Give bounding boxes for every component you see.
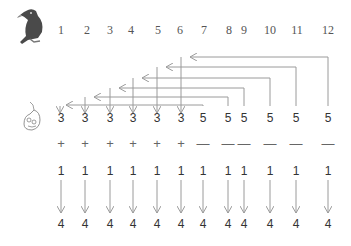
sign-cell: +: [57, 138, 65, 150]
one-cell: 1: [178, 165, 185, 177]
one-cell: 1: [130, 165, 137, 177]
result-cell: 4: [154, 218, 161, 230]
connector-12-6: [190, 57, 328, 106]
value-cell: 3: [107, 112, 114, 124]
value-cell: 3: [82, 112, 89, 124]
sign-cell: —: [290, 138, 303, 150]
top-label: 6: [177, 24, 183, 36]
one-cell: 1: [267, 165, 274, 177]
top-label: 3: [107, 24, 113, 36]
top-label: 5: [155, 24, 161, 36]
one-cell: 1: [325, 165, 332, 177]
one-cell: 1: [107, 165, 114, 177]
sign-cell: —: [264, 138, 277, 150]
connector-10-4: [142, 78, 270, 106]
top-label: 8: [226, 24, 232, 36]
top-label: 1: [58, 24, 64, 36]
sign-cell: —: [197, 138, 210, 150]
top-label: 2: [84, 24, 90, 36]
value-cell: 5: [325, 112, 332, 124]
result-cell: 4: [130, 218, 137, 230]
sign-cell: +: [177, 138, 185, 150]
result-cell: 4: [293, 218, 300, 230]
one-cell: 1: [225, 165, 232, 177]
sign-cell: +: [106, 138, 114, 150]
result-cell: 4: [200, 218, 207, 230]
result-cell: 4: [241, 218, 248, 230]
sign-cell: +: [153, 138, 161, 150]
value-cell: 5: [267, 112, 274, 124]
top-label: 4: [128, 24, 134, 36]
value-cell: 5: [200, 112, 207, 124]
result-cell: 4: [178, 218, 185, 230]
sign-cell: +: [129, 138, 137, 150]
pairing-diagram: 1 2 3 4 5 6 7 8 9 10 11 12 3 3 3 3 3 3 5…: [0, 0, 351, 246]
value-cell: 3: [154, 112, 161, 124]
connector-11-5: [166, 67, 296, 106]
value-cell: 3: [178, 112, 185, 124]
top-label: 10: [264, 24, 276, 36]
connector-7-1: [66, 105, 203, 106]
one-cell: 1: [58, 165, 65, 177]
result-cell: 4: [267, 218, 274, 230]
result-cell: 4: [58, 218, 65, 230]
value-cell: 3: [58, 112, 65, 124]
result-cell: 4: [225, 218, 232, 230]
sign-cell: —: [238, 138, 251, 150]
value-cell: 5: [241, 112, 248, 124]
one-cell: 1: [241, 165, 248, 177]
top-label: 12: [322, 24, 334, 36]
one-cell: 1: [200, 165, 207, 177]
top-label: 11: [291, 24, 303, 36]
value-cell: 5: [225, 112, 232, 124]
value-cell: 3: [130, 112, 137, 124]
value-cell: 5: [293, 112, 300, 124]
top-label: 7: [201, 24, 207, 36]
one-cell: 1: [293, 165, 300, 177]
result-cell: 4: [325, 218, 332, 230]
sign-cell: —: [222, 138, 235, 150]
one-cell: 1: [154, 165, 161, 177]
result-cell: 4: [82, 218, 89, 230]
one-cell: 1: [82, 165, 89, 177]
result-cell: 4: [107, 218, 114, 230]
sign-cell: —: [322, 138, 335, 150]
sign-cell: +: [81, 138, 89, 150]
top-label: 9: [241, 24, 247, 36]
